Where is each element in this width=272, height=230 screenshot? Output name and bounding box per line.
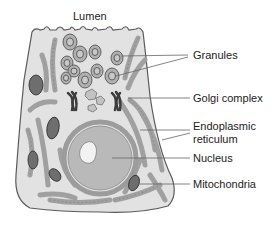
- nucleus-label: Nucleus: [193, 152, 233, 164]
- golgi-label: Golgi complex: [193, 92, 263, 104]
- er-label-line2: reticulum: [193, 133, 238, 145]
- granules-label: Granules: [193, 49, 238, 61]
- er-label-line1: Endoplasmic: [193, 120, 256, 132]
- cell-diagram: [0, 0, 272, 230]
- lumen-label: Lumen: [73, 10, 107, 22]
- mitochondria-label: Mitochondria: [193, 178, 256, 190]
